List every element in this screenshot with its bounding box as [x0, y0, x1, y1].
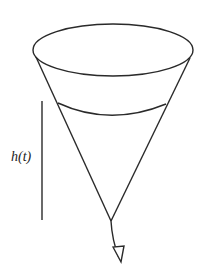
cone-right-side — [111, 58, 190, 221]
outflow-arrowhead — [113, 246, 124, 262]
cone-left-side — [36, 57, 111, 221]
cone-diagram — [0, 0, 203, 273]
water-surface — [58, 103, 166, 115]
height-label: h(t) — [11, 149, 31, 165]
cone-rim — [33, 24, 193, 76]
